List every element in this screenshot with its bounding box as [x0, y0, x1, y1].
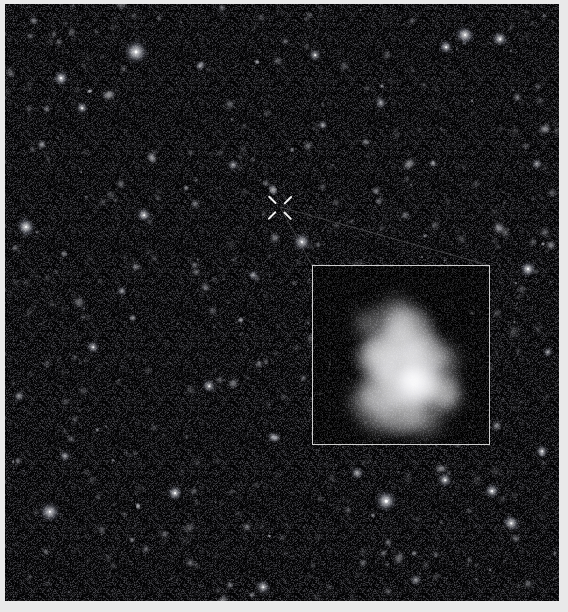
- bright-source-core: [510, 522, 512, 524]
- bright-source-core: [25, 226, 27, 228]
- bright-source-core: [143, 214, 145, 216]
- bright-source-core: [444, 479, 446, 481]
- bright-source-core: [81, 107, 83, 109]
- inset-field-source: [481, 349, 485, 353]
- bright-source-core: [208, 385, 210, 387]
- bright-source-core: [385, 500, 388, 503]
- inset-field-source: [433, 324, 435, 326]
- inset-field-source: [403, 274, 405, 276]
- inset-field-source: [336, 324, 338, 326]
- bright-source-core: [314, 54, 316, 56]
- inset-field-source: [328, 365, 331, 368]
- inset-field-source: [346, 376, 350, 380]
- inset-field-source: [387, 318, 390, 321]
- bright-source-core: [92, 346, 94, 348]
- sky-field: [5, 4, 559, 601]
- inset-field-source: [382, 267, 384, 269]
- inset-field-source: [429, 268, 430, 269]
- inset-field-source: [353, 337, 354, 338]
- bright-source-core: [135, 51, 138, 54]
- bright-source-core: [262, 586, 264, 588]
- bright-source-core: [445, 46, 447, 48]
- bright-source-core: [174, 492, 176, 494]
- bright-source-core: [60, 77, 62, 79]
- irregular-clumpy-galaxy: [313, 266, 489, 444]
- inset-field-source: [468, 426, 471, 429]
- inset-field-source: [406, 309, 409, 312]
- inset-field-source: [366, 277, 369, 280]
- bright-source-core: [464, 34, 466, 36]
- deep-field-figure: [0, 0, 568, 612]
- bright-source-core: [541, 450, 543, 452]
- bright-source-core: [499, 38, 501, 40]
- inset-field-source: [442, 270, 445, 273]
- inset-field-source: [469, 348, 471, 350]
- bright-source-core: [527, 268, 529, 270]
- galaxy-clump: [363, 402, 395, 434]
- magnified-galaxy-inset: [312, 265, 490, 445]
- inset-field-source: [329, 363, 332, 366]
- bright-source-core: [491, 490, 493, 492]
- inset-field-source: [470, 311, 474, 315]
- galaxy-clump: [403, 396, 443, 436]
- inset-field-source: [318, 392, 322, 396]
- inset-field-source: [392, 291, 394, 293]
